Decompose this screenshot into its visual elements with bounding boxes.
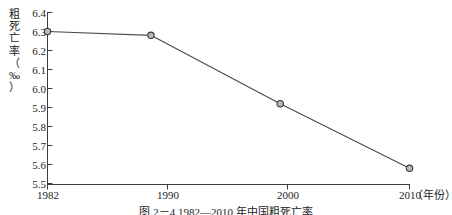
data-point-1990 bbox=[148, 32, 154, 38]
chart-figure: 粗 死 亡 率 （ ‰ ） 6.4 6.3 6.2 6.1 6.0 5.9 5.… bbox=[0, 0, 452, 215]
data-series-line bbox=[48, 32, 410, 169]
y-axis-ticks bbox=[48, 13, 53, 184]
line-chart-plot bbox=[0, 0, 452, 215]
x-axis-ticks bbox=[48, 185, 410, 190]
data-point-2000 bbox=[277, 101, 283, 107]
data-point-1982 bbox=[44, 28, 50, 34]
data-point-markers bbox=[44, 28, 412, 171]
data-point-2010 bbox=[406, 165, 412, 171]
figure-caption: 图 2－4 1982—2010 年中国粗死亡率 bbox=[0, 206, 452, 215]
